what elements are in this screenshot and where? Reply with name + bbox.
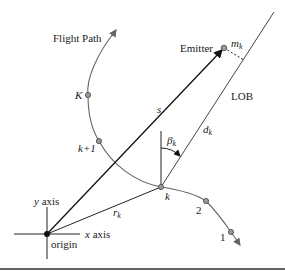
flight-path-curve — [88, 30, 240, 245]
d-k-label: dk — [203, 123, 213, 137]
r-k-label: rk — [113, 206, 121, 220]
node-2-label: 2 — [196, 204, 202, 216]
m-k-label: mk — [231, 37, 243, 51]
y-axis-label: y axis — [33, 195, 59, 207]
flight-path-label: Flight Path — [53, 32, 102, 44]
emitter-label: Emitter — [180, 42, 213, 54]
flight-path-start-arrow — [112, 30, 116, 36]
x-axis-label: x axis — [84, 228, 110, 240]
origin-label: origin — [51, 238, 78, 250]
node-k-plus-1-label: k+1 — [78, 142, 96, 154]
r-k-vector — [47, 187, 161, 234]
node-2 — [203, 198, 208, 203]
beta-k-label: βk — [166, 134, 176, 148]
emitter-node — [221, 45, 227, 51]
origin-point — [44, 231, 50, 237]
emitter-geometry-diagram: Flight Path Emitter mk LOB s dk βk rk K … — [0, 0, 285, 271]
node-1 — [228, 229, 233, 234]
s-label: s — [157, 103, 161, 115]
node-k-plus-1 — [96, 138, 101, 143]
node-K — [85, 92, 90, 97]
node-k — [158, 184, 163, 189]
lob-line — [161, 12, 274, 187]
node-k-label: k — [165, 190, 171, 202]
node-K-label: K — [74, 89, 83, 101]
lob-label: LOB — [231, 90, 253, 102]
beta-angle-arc — [161, 148, 180, 156]
node-1-label: 1 — [220, 231, 226, 243]
